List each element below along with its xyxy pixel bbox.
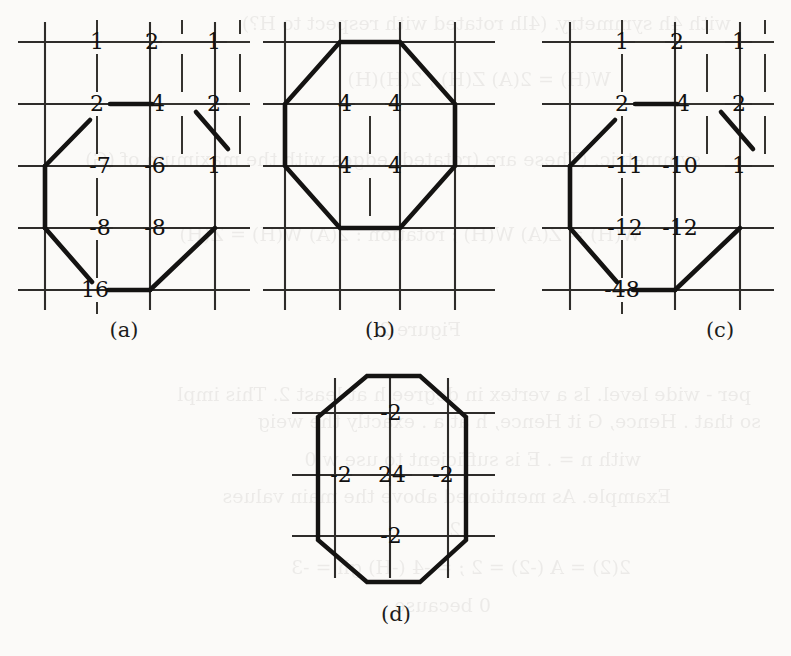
cell-value: 1	[615, 29, 629, 54]
panel-b-canvas: 4 4 4 4	[255, 14, 505, 314]
panel-c: 1 2 1 2 4 2 -11 -10 1 -12 -12 -48	[512, 14, 791, 314]
cell-value: 4	[151, 91, 165, 116]
highlighted-edges	[570, 104, 753, 290]
panel-b: 4 4 4 4	[255, 14, 505, 314]
cell-value: 2	[90, 91, 104, 116]
cell-value: 1	[90, 29, 104, 54]
panel-a-caption: (a)	[64, 318, 184, 342]
panel-b-caption: (b)	[320, 318, 440, 342]
cell-value: -8	[89, 215, 110, 240]
cell-value: 1	[732, 153, 746, 178]
panel-a: 1 2 1 2 4 2 -7 -6 1 -8 -8 16	[0, 14, 250, 314]
cell-value: 4	[676, 91, 690, 116]
cell-value: 2	[207, 91, 221, 116]
cell-value: 24	[378, 462, 406, 487]
cell-value: 4	[388, 153, 402, 178]
cell-value: -12	[607, 215, 642, 240]
cell-value: 1	[207, 153, 221, 178]
cell-value: -10	[662, 153, 697, 178]
highlighted-edges	[45, 104, 228, 290]
panel-d-caption: (d)	[336, 602, 456, 626]
cell-value: 4	[338, 91, 352, 116]
cell-value: -11	[607, 153, 642, 178]
cell-value: -7	[89, 153, 110, 178]
cell-value: -8	[144, 215, 165, 240]
cell-value: 16	[81, 277, 109, 302]
cell-value: -12	[662, 215, 697, 240]
cell-value: 2	[615, 91, 629, 116]
cell-value: -48	[604, 277, 639, 302]
cell-value: -2	[330, 462, 351, 487]
cell-value: 2	[732, 91, 746, 116]
cell-value: 1	[207, 29, 221, 54]
cell-value: 1	[732, 29, 746, 54]
panel-a-canvas: 1 2 1 2 4 2 -7 -6 1 -8 -8 16	[0, 14, 250, 314]
panel-c-caption: (c)	[660, 318, 780, 342]
cell-value: -2	[380, 400, 401, 425]
panel-d-numbers: -2 -2 24 -2 -2	[330, 400, 453, 548]
cell-value: -2	[432, 462, 453, 487]
cell-value: 2	[145, 29, 159, 54]
cell-value: -6	[144, 153, 165, 178]
cell-value: -2	[380, 523, 401, 548]
cell-value: 4	[338, 153, 352, 178]
cell-connector-dashes	[355, 104, 385, 216]
cell-value: 4	[388, 91, 402, 116]
panel-c-canvas: 1 2 1 2 4 2 -11 -10 1 -12 -12 -48	[512, 14, 791, 314]
cell-value: 2	[670, 29, 684, 54]
panel-d: -2 -2 24 -2 -2	[270, 378, 510, 598]
panel-d-canvas: -2 -2 24 -2 -2	[270, 378, 510, 598]
figure-diagram-grid: 1 2 1 2 4 2 -7 -6 1 -8 -8 16 (a)	[0, 0, 791, 656]
